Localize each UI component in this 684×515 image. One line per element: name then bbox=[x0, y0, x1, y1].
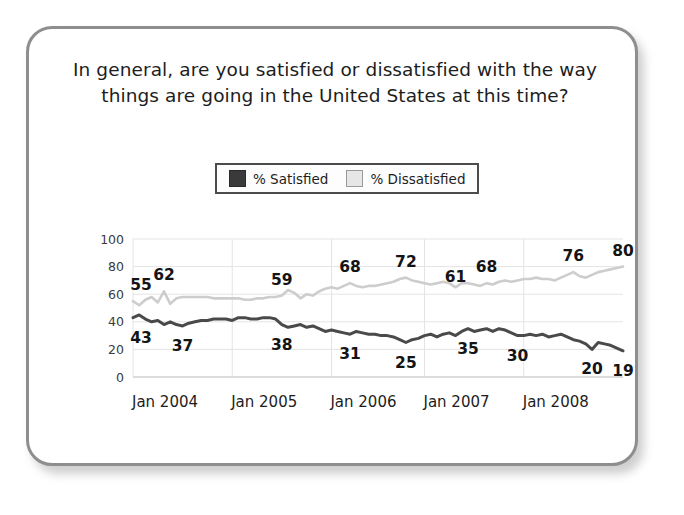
legend-label-satisfied: % Satisfied bbox=[253, 171, 328, 187]
x-axis-tick-label: Jan 2006 bbox=[329, 393, 396, 411]
x-axis-tick-label: Jan 2005 bbox=[230, 393, 297, 411]
y-axis-tick-label: 40 bbox=[108, 314, 124, 329]
data-point-label: 80 bbox=[612, 242, 634, 260]
y-axis-tick-label: 20 bbox=[108, 342, 124, 357]
light-square-icon bbox=[346, 170, 363, 187]
legend-label-dissatisfied: % Dissatisfied bbox=[370, 171, 465, 187]
page-title: In general, are you satisfied or dissati… bbox=[65, 57, 605, 109]
data-labels: 556259687261687680433738312535302019 bbox=[130, 242, 634, 380]
series-line bbox=[133, 267, 623, 306]
data-point-label: 19 bbox=[612, 362, 634, 380]
line-chart-svg: 020406080100 Jan 2004Jan 2005Jan 2006Jan… bbox=[29, 227, 635, 437]
data-point-label: 25 bbox=[395, 354, 417, 372]
dark-square-icon bbox=[229, 170, 246, 187]
data-point-label: 20 bbox=[581, 360, 603, 378]
data-point-label: 35 bbox=[457, 340, 479, 358]
data-point-label: 38 bbox=[271, 336, 293, 354]
series-line bbox=[133, 315, 623, 351]
y-axis-tick-label: 100 bbox=[100, 232, 124, 247]
data-point-label: 59 bbox=[271, 271, 293, 289]
data-point-label: 43 bbox=[130, 329, 152, 347]
gridlines bbox=[133, 239, 623, 377]
y-axis-tick-label: 80 bbox=[108, 259, 124, 274]
x-axis-tick-label: Jan 2004 bbox=[131, 393, 198, 411]
x-axis-ticks: Jan 2004Jan 2005Jan 2006Jan 2007Jan 2008 bbox=[131, 393, 589, 411]
legend-item-satisfied: % Satisfied bbox=[229, 170, 328, 187]
chart-card: In general, are you satisfied or dissati… bbox=[26, 26, 638, 466]
data-point-label: 55 bbox=[130, 276, 152, 294]
chart-plot-area: 020406080100 Jan 2004Jan 2005Jan 2006Jan… bbox=[29, 227, 635, 437]
data-point-label: 76 bbox=[563, 247, 585, 265]
series-lines bbox=[133, 267, 623, 351]
y-axis-tick-label: 0 bbox=[116, 370, 124, 385]
x-axis-tick-label: Jan 2007 bbox=[422, 393, 489, 411]
data-point-label: 68 bbox=[339, 258, 361, 276]
data-point-label: 68 bbox=[476, 258, 498, 276]
data-point-label: 61 bbox=[445, 268, 467, 286]
legend-item-dissatisfied: % Dissatisfied bbox=[346, 170, 465, 187]
x-axis-tick-label: Jan 2008 bbox=[522, 393, 589, 411]
data-point-label: 31 bbox=[339, 345, 361, 363]
data-point-label: 37 bbox=[172, 337, 194, 355]
chart-legend: % Satisfied % Dissatisfied bbox=[215, 163, 479, 194]
data-point-label: 30 bbox=[507, 347, 529, 365]
data-point-label: 72 bbox=[395, 253, 417, 271]
data-point-label: 62 bbox=[153, 266, 175, 284]
y-axis-ticks: 020406080100 bbox=[100, 232, 124, 385]
y-axis-tick-label: 60 bbox=[108, 287, 124, 302]
